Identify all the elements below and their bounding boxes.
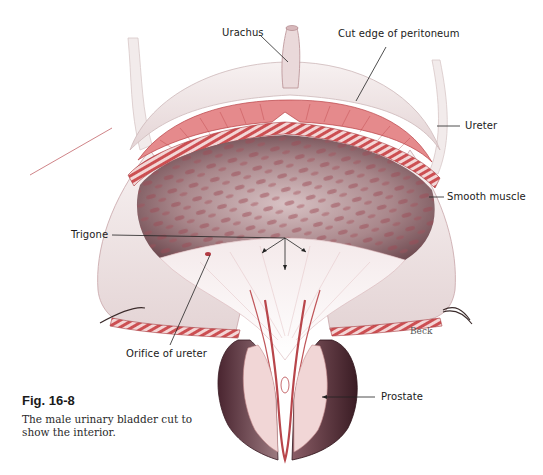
figure-number: Fig. 16-8 <box>22 393 75 408</box>
right-ureter-tube <box>430 60 447 174</box>
label-orifice-of-ureter: Orifice of ureter <box>126 348 207 359</box>
label-trigone: Trigone <box>71 229 108 240</box>
label-cut-edge-of-peritoneum: Cut edge of peritoneum <box>338 28 460 39</box>
label-prostate: Prostate <box>381 391 423 402</box>
label-urachus: Urachus <box>222 27 264 38</box>
left-ureter-tube <box>30 38 152 175</box>
urachus-stalk <box>282 28 300 88</box>
artist-signature: Beck <box>410 326 432 336</box>
figure-caption: The male urinary bladder cut to show the… <box>22 413 197 439</box>
label-ureter: Ureter <box>465 120 497 131</box>
label-smooth-muscle: Smooth muscle <box>447 191 526 202</box>
